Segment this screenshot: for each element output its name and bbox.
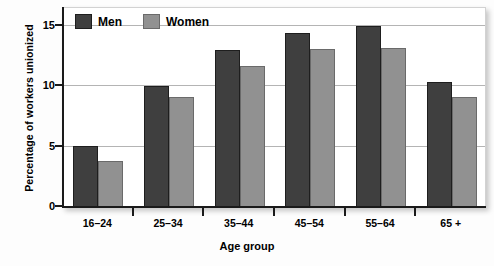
x-tick-label-1: 25–34 <box>153 217 182 229</box>
gridline-10 <box>63 85 485 86</box>
legend-item-men: Men <box>75 14 122 29</box>
y-tick-label-10: 10 <box>9 79 55 91</box>
x-tick-5 <box>414 208 416 216</box>
men-swatch-icon <box>75 14 92 29</box>
plot-inner <box>63 8 485 207</box>
bar-men-3 <box>285 33 310 207</box>
y-tick-label-5: 5 <box>9 140 55 152</box>
x-tick-2 <box>202 208 204 216</box>
bar-men-4 <box>356 26 381 207</box>
x-tick-label-4: 55–64 <box>365 217 394 229</box>
bar-women-3 <box>310 49 335 207</box>
x-axis-label: Age group <box>0 240 494 252</box>
x-tick-label-5: 65 + <box>440 217 461 229</box>
bar-men-5 <box>427 82 452 207</box>
plot-area <box>62 7 486 208</box>
x-tick-label-3: 45–54 <box>295 217 324 229</box>
legend-label-women: Women <box>166 15 209 29</box>
bar-women-1 <box>169 97 194 207</box>
y-tick-15 <box>55 24 62 26</box>
y-tick-label-15: 15 <box>9 19 55 31</box>
y-axis-line <box>62 7 64 208</box>
bar-women-0 <box>98 161 123 207</box>
legend-label-men: Men <box>98 15 122 29</box>
bar-women-2 <box>240 66 265 207</box>
y-tick-0 <box>55 205 62 207</box>
x-tick-4 <box>344 208 346 216</box>
y-tick-label-0: 0 <box>9 200 55 212</box>
gridline-5 <box>63 146 485 147</box>
chart-legend: Men Women <box>75 14 221 29</box>
x-tick-3 <box>273 208 275 216</box>
bar-women-4 <box>381 48 406 207</box>
y-tick-10 <box>55 84 62 86</box>
y-axis-label: Percentage of workers unionized <box>23 3 35 213</box>
y-tick-5 <box>55 145 62 147</box>
bar-chart-figure: Percentage of workers unionized 051015 1… <box>0 0 494 266</box>
bar-men-0 <box>73 146 98 208</box>
bar-men-2 <box>215 50 240 207</box>
women-swatch-icon <box>143 14 160 29</box>
x-tick-1 <box>132 208 134 216</box>
x-tick-label-2: 35–44 <box>224 217 253 229</box>
x-tick-label-0: 16–24 <box>83 217 112 229</box>
bar-women-5 <box>452 97 477 207</box>
bar-men-1 <box>144 86 169 207</box>
legend-item-women: Women <box>143 14 209 29</box>
